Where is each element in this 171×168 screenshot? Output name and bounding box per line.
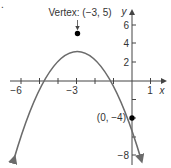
y-axis-label: y [121,6,128,17]
x-axis-label: x [159,85,166,96]
parabola-chart: . −6 −3 1 x 6 4 2 −8 y Vertex: (−3, 5) (… [0,0,171,168]
y-intercept-label: (0, −4) [97,112,126,123]
y-tick-label-2: 2 [123,57,129,68]
y-intercept-point [129,115,134,120]
y-tick-label-6: 6 [123,20,129,31]
problem-marker: . [1,0,4,10]
y-tick-label-neg8: −8 [118,150,130,161]
x-tick-label-neg6: −6 [10,85,22,96]
vertex-label: Vertex: (−3, 5) [48,7,111,18]
parabola-curve [14,52,141,160]
x-tick-label-neg3: −3 [66,85,78,96]
x-tick-label-1: 1 [147,85,153,96]
vertex-point [75,31,80,36]
y-tick-label-4: 4 [123,38,129,49]
